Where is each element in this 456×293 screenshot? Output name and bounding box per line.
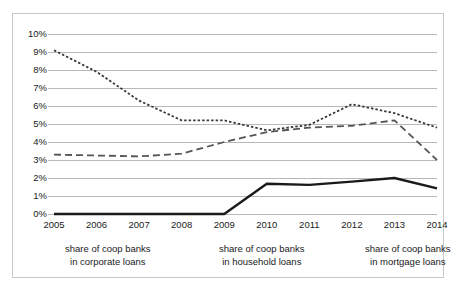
legend-label-line1: share of coop banks xyxy=(219,242,305,255)
series-line-0 xyxy=(54,120,437,160)
y-tick-label: 5% xyxy=(13,119,47,129)
plot-area: 0%1%2%3%4%5%6%7%8%9%10% 2005200620072008… xyxy=(13,14,445,226)
legend-label-line2: in mortgage loans xyxy=(365,255,451,268)
x-tick-label: 2011 xyxy=(289,219,329,230)
x-tick-label: 2013 xyxy=(374,219,414,230)
x-tick-label: 2012 xyxy=(332,219,372,230)
chart-legend: share of coop banksin corporate loanssha… xyxy=(13,240,445,277)
y-tick-label: 8% xyxy=(13,65,47,75)
series-lines xyxy=(54,50,437,214)
x-tick-label: 2008 xyxy=(162,219,202,230)
y-tick-label: 10% xyxy=(13,29,47,39)
series-line-1 xyxy=(54,50,437,130)
x-tick-label: 2009 xyxy=(204,219,244,230)
y-tick-label: 1% xyxy=(13,191,47,201)
legend-label-line2: in household loans xyxy=(219,255,305,268)
chart-frame: 0%1%2%3%4%5%6%7%8%9%10% 2005200620072008… xyxy=(12,13,444,278)
x-tick-label: 2010 xyxy=(247,219,287,230)
legend-label-2: share of coop banksin mortgage loans xyxy=(365,242,451,268)
y-tick-label: 4% xyxy=(13,137,47,147)
legend-label-1: share of coop banksin household loans xyxy=(219,242,305,268)
y-tick-label: 0% xyxy=(13,209,47,219)
y-tick-label: 2% xyxy=(13,173,47,183)
x-tick-label: 2006 xyxy=(77,219,117,230)
x-tick-label: 2014 xyxy=(417,219,456,230)
chart-canvas xyxy=(13,14,445,226)
y-tick-label: 9% xyxy=(13,47,47,57)
legend-label-line1: share of coop banks xyxy=(365,242,451,255)
y-tick-label: 6% xyxy=(13,101,47,111)
legend-label-line2: in corporate loans xyxy=(65,255,151,268)
y-tick-label: 3% xyxy=(13,155,47,165)
legend-label-line1: share of coop banks xyxy=(65,242,151,255)
x-tick-label: 2005 xyxy=(34,219,74,230)
y-tick-label: 7% xyxy=(13,83,47,93)
x-tick-label: 2007 xyxy=(119,219,159,230)
legend-label-0: share of coop banksin corporate loans xyxy=(65,242,151,268)
